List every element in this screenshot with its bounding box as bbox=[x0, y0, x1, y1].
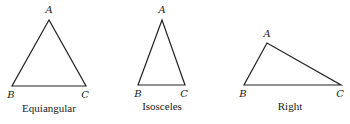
triangle-types-figure: A B C Equiangular A B C Isosceles A B C … bbox=[0, 0, 350, 124]
figure-canvas: A B C Equiangular A B C Isosceles A B C … bbox=[0, 0, 350, 124]
triangle-shape bbox=[12, 20, 86, 86]
caption-equiangular: Equiangular bbox=[22, 102, 76, 114]
triangle-equiangular: A B C Equiangular bbox=[6, 4, 89, 114]
vertex-label-a: A bbox=[157, 4, 165, 15]
vertex-label-c: C bbox=[336, 88, 344, 99]
vertex-label-b: B bbox=[133, 88, 141, 99]
triangle-shape bbox=[138, 20, 185, 85]
triangle-right: A B C Right bbox=[238, 28, 344, 112]
vertex-label-a: A bbox=[262, 28, 270, 39]
caption-isosceles: Isosceles bbox=[142, 100, 182, 112]
caption-right: Right bbox=[278, 100, 302, 112]
vertex-label-c: C bbox=[81, 89, 89, 100]
vertex-label-c: C bbox=[180, 88, 188, 99]
vertex-label-b: B bbox=[238, 88, 246, 99]
triangle-shape bbox=[244, 43, 341, 85]
vertex-label-b: B bbox=[6, 89, 14, 100]
vertex-label-a: A bbox=[44, 4, 52, 15]
triangle-isosceles: A B C Isosceles bbox=[133, 4, 188, 112]
